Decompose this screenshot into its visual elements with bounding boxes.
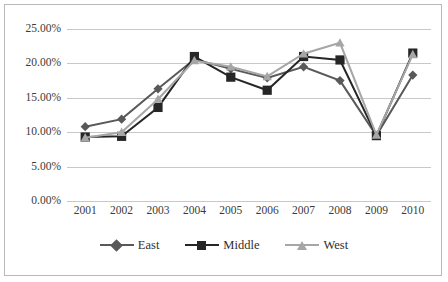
- legend-label: West: [323, 239, 348, 252]
- y-tick-label: 10.00%: [5, 126, 61, 138]
- series-line: [85, 43, 413, 138]
- y-tick-label: 0.00%: [5, 195, 61, 207]
- x-tick-label-2001: 2001: [74, 205, 97, 217]
- x-tick-label-2007: 2007: [292, 205, 315, 217]
- legend-item-middle[interactable]: Middle: [185, 239, 259, 252]
- data-point-triangle-icon: [335, 38, 344, 46]
- y-tick-label: 5.00%: [5, 161, 61, 173]
- legend-label: East: [138, 239, 160, 252]
- y-tick-label: 20.00%: [5, 57, 61, 69]
- legend-label: Middle: [223, 239, 259, 252]
- data-point-diamond-icon: [81, 122, 90, 131]
- y-axis: 0.00%5.00%10.00%15.00%20.00%25.00%: [5, 29, 61, 201]
- x-tick-label-2009: 2009: [365, 205, 388, 217]
- x-tick-label-2008: 2008: [329, 205, 352, 217]
- gridline-000: [67, 201, 431, 202]
- plot-area: [67, 29, 431, 201]
- series-west: [81, 38, 418, 141]
- data-point-square-icon: [226, 73, 235, 82]
- series-layer: [67, 29, 431, 201]
- series-east: [81, 55, 418, 141]
- series-line: [85, 53, 413, 137]
- legend-swatch-triangle-icon: [285, 239, 319, 251]
- x-tick-label-2005: 2005: [219, 205, 242, 217]
- data-point-square-icon: [153, 103, 162, 112]
- legend-swatch-diamond-icon: [100, 239, 134, 251]
- legend-item-east[interactable]: East: [100, 239, 160, 252]
- x-tick-label-2010: 2010: [401, 205, 424, 217]
- data-point-square-icon: [263, 86, 272, 95]
- chart-frame: 0.00%5.00%10.00%15.00%20.00%25.00% 20012…: [4, 4, 442, 276]
- x-axis: 2001200220032004200520062007200820092010: [67, 205, 431, 223]
- data-point-diamond-icon: [299, 62, 308, 71]
- x-tick-label-2006: 2006: [256, 205, 279, 217]
- y-tick-label: 25.00%: [5, 23, 61, 35]
- series-middle: [81, 48, 418, 141]
- legend-item-west[interactable]: West: [285, 239, 348, 252]
- data-point-diamond-icon: [408, 70, 417, 79]
- chart-legend: EastMiddleWest: [5, 233, 443, 257]
- x-tick-label-2004: 2004: [183, 205, 206, 217]
- legend-swatch-square-icon: [185, 239, 219, 251]
- y-tick-label: 15.00%: [5, 92, 61, 104]
- x-tick-label-2002: 2002: [110, 205, 133, 217]
- data-point-square-icon: [335, 55, 344, 64]
- x-tick-label-2003: 2003: [147, 205, 170, 217]
